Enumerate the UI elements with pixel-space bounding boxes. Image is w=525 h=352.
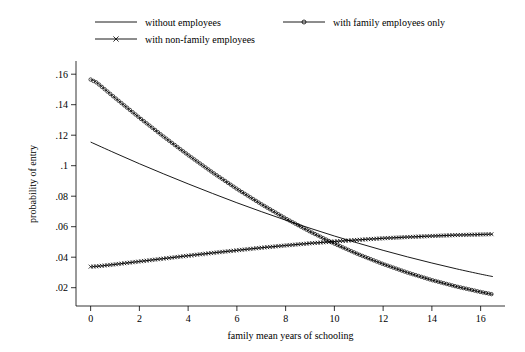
entry-probability-line-chart: .02.04.06.08.1.12.14.160246810121416fami… xyxy=(0,0,525,352)
legend-item-label: without employees xyxy=(145,17,221,28)
y-tick-label: .08 xyxy=(56,191,69,202)
x-tick-label: 2 xyxy=(137,313,142,324)
legend-item-label: with non-family employees xyxy=(145,34,255,45)
x-tick-label: 8 xyxy=(283,313,288,324)
axes xyxy=(76,61,505,306)
y-tick-group: .02.04.06.08.1.12.14.16 xyxy=(56,69,77,293)
x-tick-label: 12 xyxy=(378,313,388,324)
legend-item-1[interactable]: without employees xyxy=(95,17,221,28)
x-tick-label: 0 xyxy=(88,313,93,324)
y-tick-label: .04 xyxy=(56,252,69,263)
legend-item-2[interactable]: with family employees only xyxy=(283,17,445,28)
chart-container: .02.04.06.08.1.12.14.160246810121416fami… xyxy=(0,0,525,352)
y-tick-label: .14 xyxy=(56,99,69,110)
y-tick-label: .1 xyxy=(61,160,69,171)
y-tick-label: .02 xyxy=(56,282,69,293)
series-1 xyxy=(91,142,493,277)
x-tick-group: 0246810121416 xyxy=(88,306,486,324)
legend: without employeeswith family employees o… xyxy=(95,17,445,45)
x-tick-label: 16 xyxy=(476,313,486,324)
x-tick-label: 14 xyxy=(427,313,437,324)
legend-item-3[interactable]: with non-family employees xyxy=(95,34,255,45)
y-axis-title: probability of entry xyxy=(27,145,38,223)
x-tick-label: 10 xyxy=(329,313,339,324)
y-tick-label: .12 xyxy=(56,130,69,141)
series-line xyxy=(91,142,493,277)
x-tick-label: 4 xyxy=(186,313,191,324)
y-tick-label: .16 xyxy=(56,69,69,80)
x-tick-label: 6 xyxy=(234,313,239,324)
x-axis-title: family mean years of schooling xyxy=(227,330,353,341)
data-series-group xyxy=(89,78,494,296)
y-tick-label: .06 xyxy=(56,221,69,232)
legend-item-label: with family employees only xyxy=(333,17,445,28)
